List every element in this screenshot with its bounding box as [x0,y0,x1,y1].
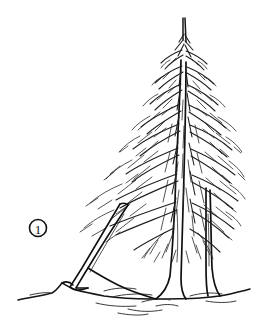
figure-background [0,0,260,328]
tree-line-drawing: 1 [0,0,260,328]
callout-marker-1[interactable]: 1 [30,220,47,237]
figure-container: 1 [0,0,260,328]
callout-number: 1 [35,222,42,237]
